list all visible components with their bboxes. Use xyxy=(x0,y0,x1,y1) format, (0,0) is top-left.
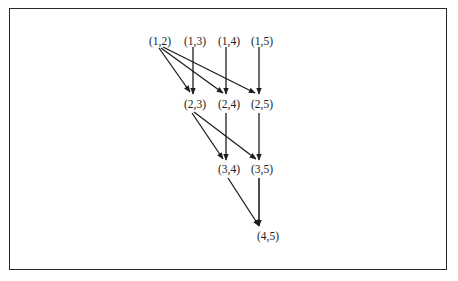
node-1-5: (1,5) xyxy=(251,35,273,48)
edge-12-23 xyxy=(159,48,190,92)
node-1-3: (1,3) xyxy=(184,35,206,48)
edge-12-25 xyxy=(163,47,255,93)
node-4-5: (4,5) xyxy=(257,230,279,243)
node-2-3: (2,3) xyxy=(184,98,206,111)
edge-12-24 xyxy=(161,48,223,93)
node-1-2: (1,2) xyxy=(149,35,171,48)
node-2-4: (2,4) xyxy=(218,98,240,111)
graph-canvas: (1,2) (1,3) (1,4) (1,5) (2,3) (2,4) (2,5… xyxy=(0,0,458,281)
node-2-5: (2,5) xyxy=(251,98,273,111)
edges xyxy=(159,47,259,226)
node-1-4: (1,4) xyxy=(218,35,240,48)
edge-23-34 xyxy=(192,113,223,159)
node-3-5: (3,5) xyxy=(251,163,273,176)
edge-34-45 xyxy=(228,178,259,226)
edge-23-35 xyxy=(194,112,256,159)
node-3-4: (3,4) xyxy=(218,163,240,176)
